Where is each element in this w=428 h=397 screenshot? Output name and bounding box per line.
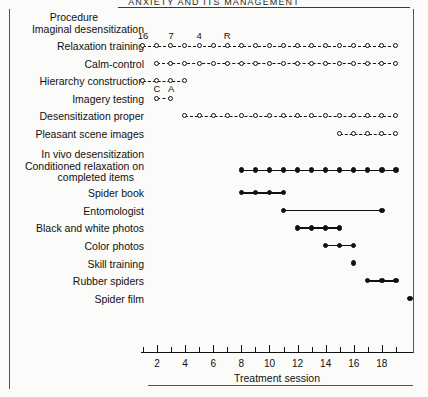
axis-tick-label: 2 bbox=[147, 358, 167, 369]
axis-tick bbox=[241, 345, 242, 353]
axis-tick bbox=[213, 345, 214, 353]
axis-tick bbox=[382, 345, 383, 353]
axis-tick bbox=[199, 347, 200, 353]
axis-tick bbox=[157, 345, 158, 353]
axis-tick-label: 4 bbox=[175, 358, 195, 369]
figure-panel: ANXIETY AND ITS MANAGEMENT Procedure Ima… bbox=[0, 0, 428, 397]
axis-tick-label: 10 bbox=[259, 358, 279, 369]
axis-tick bbox=[298, 345, 299, 353]
axis-tick bbox=[396, 347, 397, 353]
axis-title: Treatment session bbox=[141, 372, 413, 384]
axis-tick bbox=[227, 347, 228, 353]
axis-tick bbox=[269, 345, 270, 353]
axis-line bbox=[141, 352, 413, 353]
axis-tick bbox=[368, 347, 369, 353]
axis-tick bbox=[185, 345, 186, 353]
axis-tick-label: 18 bbox=[372, 358, 392, 369]
axis-tick bbox=[340, 347, 341, 353]
axis-tick bbox=[171, 347, 172, 353]
axis-tick-label: 16 bbox=[344, 358, 364, 369]
axis-tick bbox=[255, 347, 256, 353]
axis-tick bbox=[284, 347, 285, 353]
axis-tick bbox=[143, 347, 144, 353]
axis-tick-label: 12 bbox=[288, 358, 308, 369]
axis-tick bbox=[326, 345, 327, 353]
x-axis: 24681012141618Treatment session bbox=[0, 0, 428, 397]
axis-tick bbox=[354, 345, 355, 353]
axis-tick bbox=[312, 347, 313, 353]
axis-tick-label: 14 bbox=[316, 358, 336, 369]
axis-tick-label: 6 bbox=[203, 358, 223, 369]
axis-tick-label: 8 bbox=[231, 358, 251, 369]
